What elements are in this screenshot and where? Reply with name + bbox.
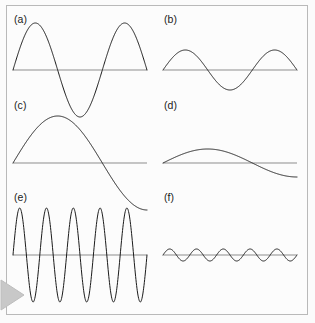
panel-label-b: (b)	[164, 14, 177, 25]
panel-label-d: (d)	[164, 100, 177, 111]
panel-label-c: (c)	[14, 100, 27, 111]
axes-layer	[13, 70, 297, 255]
panel-label-a: (a)	[14, 14, 27, 25]
panel-label-f: (f)	[164, 192, 174, 203]
figure-root: (a) (b) (c) (d) (e) (f)	[0, 0, 315, 323]
waveform-plot	[0, 0, 315, 323]
page-flip-triangle-icon	[0, 278, 26, 312]
panel-label-e: (e)	[14, 192, 27, 203]
